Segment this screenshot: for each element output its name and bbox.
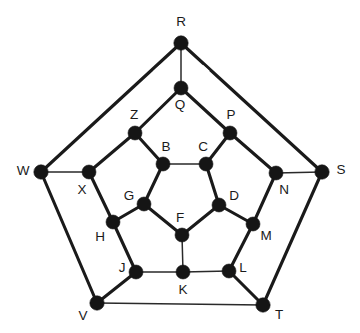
graph-node-P[interactable] bbox=[223, 126, 237, 140]
graph-node-label-L: L bbox=[239, 260, 247, 275]
graph-node-D[interactable] bbox=[212, 198, 226, 212]
graph-node-K[interactable] bbox=[176, 265, 190, 279]
graph-edge-N-M bbox=[253, 173, 276, 224]
graph-edge-X-Z bbox=[89, 133, 135, 172]
graph-node-R[interactable] bbox=[174, 36, 188, 50]
graph-node-label-S: S bbox=[336, 162, 345, 177]
graph-edge-S-T bbox=[263, 172, 322, 305]
graph-node-label-K: K bbox=[178, 282, 187, 297]
graph-node-label-P: P bbox=[226, 107, 235, 122]
graph-node-S[interactable] bbox=[315, 165, 329, 179]
graph-node-C[interactable] bbox=[199, 157, 213, 171]
graph-node-label-B: B bbox=[161, 139, 170, 154]
graph-edge-V-T bbox=[97, 303, 263, 305]
graph-node-Z[interactable] bbox=[128, 126, 142, 140]
graph-canvas: RSTVWQPNMLKJHXZBCDFG bbox=[0, 0, 360, 333]
graph-node-H[interactable] bbox=[106, 215, 120, 229]
graph-node-label-V: V bbox=[78, 308, 87, 323]
graph-node-N[interactable] bbox=[269, 166, 283, 180]
graph-node-label-R: R bbox=[176, 14, 186, 29]
graph-node-label-W: W bbox=[17, 163, 30, 178]
graph-node-label-Z: Z bbox=[130, 107, 138, 122]
graph-node-F[interactable] bbox=[175, 228, 189, 242]
graph-node-G[interactable] bbox=[137, 197, 151, 211]
graph-node-label-D: D bbox=[229, 188, 239, 203]
graph-node-label-X: X bbox=[77, 182, 86, 197]
graph-node-label-N: N bbox=[279, 182, 289, 197]
graph-edge-Q-P bbox=[181, 88, 230, 133]
graph-node-label-T: T bbox=[275, 307, 283, 322]
graph-node-label-F: F bbox=[176, 210, 184, 225]
graph-node-label-J: J bbox=[119, 260, 126, 275]
graph-node-M[interactable] bbox=[246, 217, 260, 231]
graph-edge-W-V bbox=[41, 172, 97, 303]
graph-node-J[interactable] bbox=[129, 265, 143, 279]
graph-edge-P-N bbox=[230, 133, 276, 173]
graph-node-Q[interactable] bbox=[174, 81, 188, 95]
graph-node-label-G: G bbox=[124, 188, 135, 203]
graph-node-B[interactable] bbox=[156, 157, 170, 171]
graph-node-label-C: C bbox=[198, 139, 208, 154]
graph-node-label-H: H bbox=[95, 229, 105, 244]
graph-node-label-M: M bbox=[260, 228, 271, 243]
graph-node-W[interactable] bbox=[34, 165, 48, 179]
graph-edge-H-X bbox=[89, 172, 113, 222]
graph-figure: RSTVWQPNMLKJHXZBCDFG bbox=[0, 0, 360, 333]
graph-node-T[interactable] bbox=[256, 298, 270, 312]
graph-node-X[interactable] bbox=[82, 165, 96, 179]
graph-node-L[interactable] bbox=[222, 264, 236, 278]
graph-node-V[interactable] bbox=[90, 296, 104, 310]
graph-node-label-Q: Q bbox=[175, 97, 186, 112]
